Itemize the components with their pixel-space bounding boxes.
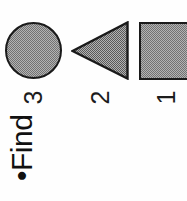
shape-circle[interactable] <box>5 22 62 79</box>
shape-label-2: 2 <box>88 78 113 118</box>
shape-square[interactable] <box>139 22 187 80</box>
bullet-heading: •Find <box>7 109 37 181</box>
shape-label-1: 1 <box>154 78 179 118</box>
shape-triangle-left[interactable] <box>71 21 129 80</box>
slide-canvas: 3 2 1 •Find <box>0 0 187 201</box>
